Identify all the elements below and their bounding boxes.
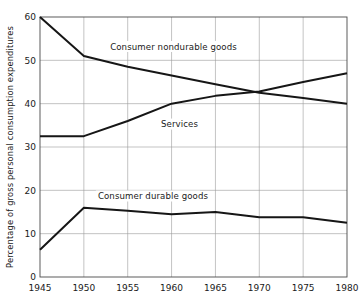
chart-figure: Consumer nondurable goodsServicesConsume… xyxy=(0,0,360,307)
series-label-2: Consumer durable goods xyxy=(98,191,209,201)
x-tick-label: 1975 xyxy=(292,283,315,293)
x-tick-label: 1970 xyxy=(248,283,271,293)
series-label-0: Consumer nondurable goods xyxy=(110,42,237,52)
y-tick-label: 30 xyxy=(25,142,37,152)
y-tick-label: 40 xyxy=(25,99,37,109)
x-tick-label: 1965 xyxy=(204,283,227,293)
line-chart-svg: Consumer nondurable goodsServicesConsume… xyxy=(0,0,360,307)
y-tick-label: 60 xyxy=(25,12,37,22)
y-axis-tick-labels: 0102030405060 xyxy=(25,12,37,282)
y-tick-label: 0 xyxy=(30,272,36,282)
x-tick-label: 1980 xyxy=(336,283,359,293)
y-tick-label: 20 xyxy=(25,186,37,196)
x-tick-label: 1955 xyxy=(116,283,139,293)
series-label-1: Services xyxy=(161,119,198,129)
y-axis-title: Percentage of gross personal consumption… xyxy=(5,26,15,268)
x-axis-tick-labels: 19451950195519601965197019751980 xyxy=(29,283,359,293)
x-tick-label: 1945 xyxy=(29,283,52,293)
x-tick-label: 1950 xyxy=(72,283,95,293)
x-tick-label: 1960 xyxy=(160,283,183,293)
y-tick-label: 50 xyxy=(25,56,37,66)
y-tick-label: 10 xyxy=(25,229,37,239)
